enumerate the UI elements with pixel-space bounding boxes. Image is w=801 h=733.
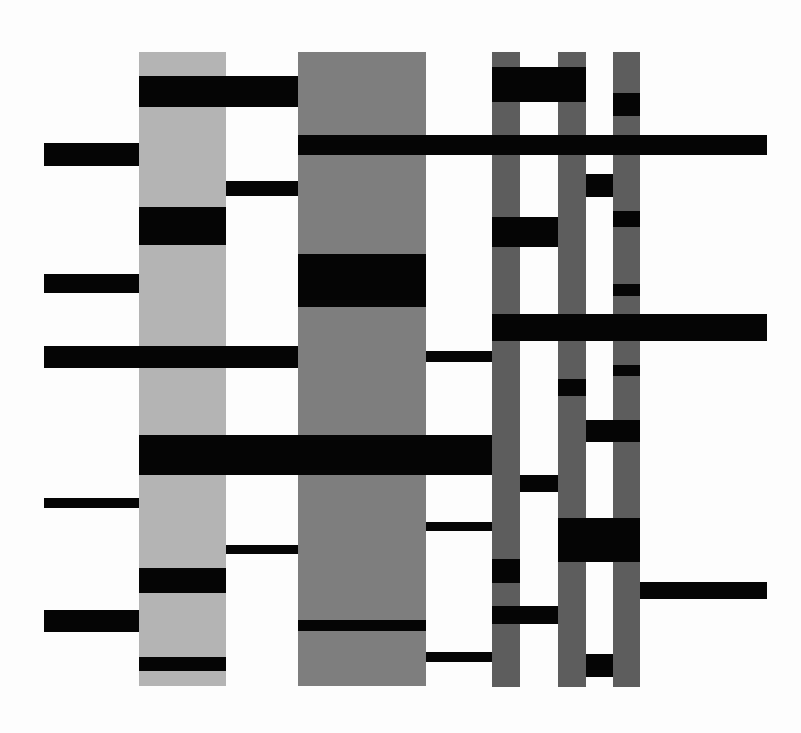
black-bar — [492, 606, 558, 624]
black-bar — [586, 654, 613, 677]
black-bar — [139, 435, 492, 475]
black-bar — [426, 522, 492, 531]
black-bar — [492, 559, 520, 583]
black-bar — [613, 284, 640, 296]
black-bar — [226, 181, 298, 196]
black-bar — [298, 620, 426, 631]
black-bar — [640, 582, 767, 599]
black-bar — [298, 135, 767, 155]
black-bar — [613, 211, 640, 227]
black-bar — [426, 652, 492, 662]
black-bar — [44, 498, 139, 508]
black-bar — [298, 254, 426, 307]
black-bar — [613, 93, 640, 116]
black-bar — [44, 346, 298, 368]
black-bar — [520, 475, 558, 492]
black-bar — [139, 207, 226, 245]
black-bar — [139, 568, 226, 593]
black-bar — [492, 217, 558, 247]
black-bar — [139, 657, 226, 671]
black-bar — [586, 420, 640, 442]
black-bar — [492, 314, 767, 341]
black-bar — [426, 351, 492, 362]
black-bar — [44, 610, 139, 632]
black-bar — [586, 174, 613, 197]
abstract-composition — [0, 0, 801, 733]
black-bar — [44, 274, 139, 293]
black-bar — [139, 76, 298, 107]
black-bar — [492, 67, 586, 102]
black-bar — [226, 545, 298, 554]
black-bar — [558, 379, 586, 396]
black-bar — [44, 143, 139, 166]
black-bar — [558, 518, 640, 562]
black-bar — [613, 365, 640, 376]
